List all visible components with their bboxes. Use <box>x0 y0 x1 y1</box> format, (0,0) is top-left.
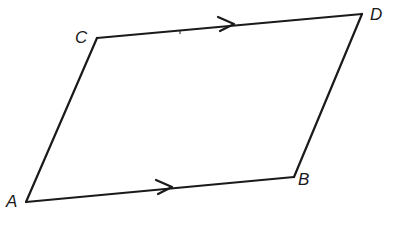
vertex-label-a: A <box>6 193 17 210</box>
vertex-label-d: D <box>370 6 382 23</box>
edge-bd <box>294 14 362 177</box>
figure-caption: — — <box>140 224 227 231</box>
diagram-svg <box>0 0 394 231</box>
vertex-label-c: C <box>75 29 87 46</box>
edge-ac <box>26 38 97 202</box>
arrow-head-ab-icon <box>156 180 172 194</box>
vertex-label-b: B <box>298 171 309 188</box>
arrow-head-cd-icon <box>218 17 234 31</box>
parallelogram-diagram: A B C D — — <box>0 0 394 231</box>
